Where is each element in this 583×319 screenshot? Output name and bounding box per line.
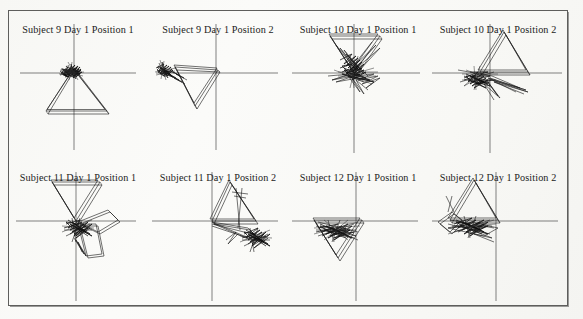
trajectory-plot — [148, 158, 288, 306]
trajectory-plot — [428, 10, 568, 158]
stroke-cluster-trace — [458, 66, 528, 100]
triangle-trace — [478, 30, 530, 75]
trajectory-plot — [288, 10, 428, 158]
figure-plate: Subject 9 Day 1 Position 1 — [0, 0, 583, 319]
triangle-trace — [51, 180, 102, 224]
panel-grid: Subject 9 Day 1 Position 1 — [8, 10, 568, 306]
trajectory-plot — [8, 158, 148, 306]
trajectory-plot — [8, 10, 148, 158]
trajectory-plot — [428, 158, 568, 306]
triangle-trace — [174, 65, 220, 109]
panel-subject-12-position-2: Subject 12 Day 1 Position 2 — [428, 158, 568, 306]
triangle-trace — [448, 178, 500, 223]
panel-subject-9-position-1: Subject 9 Day 1 Position 1 — [8, 10, 148, 158]
panel-subject-10-position-1: Subject 10 Day 1 Position 1 — [288, 10, 428, 158]
panel-subject-11-position-2: Subject 11 Day 1 Position 2 — [148, 158, 288, 306]
triangle-trace — [210, 180, 258, 224]
quad-trace — [78, 210, 120, 258]
stroke-cluster-trace — [212, 224, 272, 252]
panel-subject-10-position-2: Subject 10 Day 1 Position 2 — [428, 10, 568, 158]
trajectory-plot — [148, 10, 288, 158]
panel-subject-11-position-1: Subject 11 Day 1 Position 1 — [8, 158, 148, 306]
panel-subject-9-position-2: Subject 9 Day 1 Position 2 — [148, 10, 288, 158]
panel-subject-12-position-1: Subject 12 Day 1 Position 1 — [288, 158, 428, 306]
trajectory-plot — [288, 158, 428, 306]
